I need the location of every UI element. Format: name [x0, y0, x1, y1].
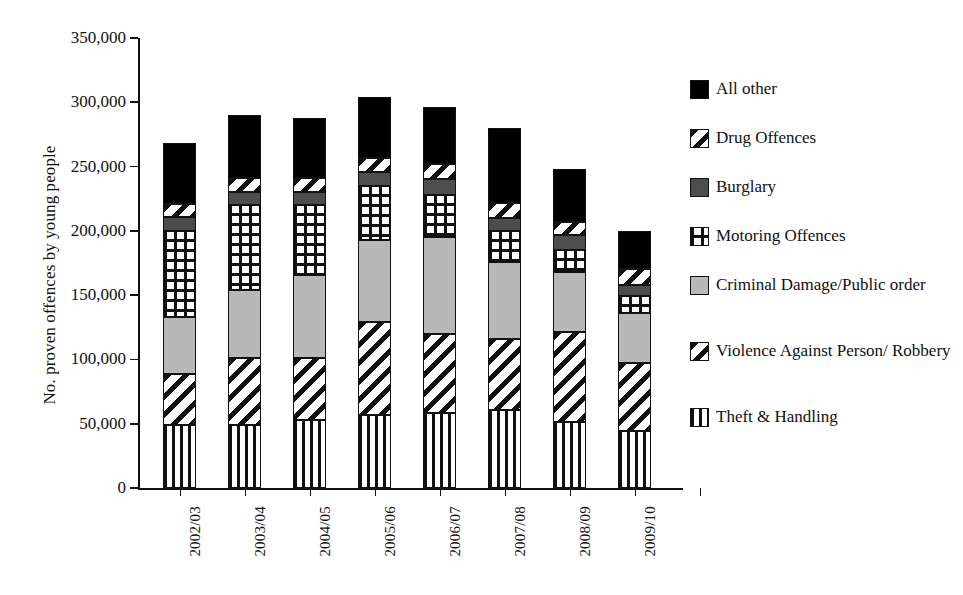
bar-segment [163, 204, 196, 217]
legend-label: Drug Offences [716, 127, 816, 148]
bar-segment [228, 205, 261, 290]
bar-segment [423, 334, 456, 414]
bar-segment [423, 164, 456, 179]
x-tick [635, 488, 637, 496]
bar-2006-07[interactable] [423, 107, 456, 488]
legend-label: Motoring Offences [716, 225, 846, 246]
x-axis-label: 2009/10 [642, 506, 659, 557]
bar-segment [358, 240, 391, 322]
y-axis-line [138, 38, 140, 488]
y-tick-label: 50,000 [79, 414, 126, 434]
y-axis-title: No. proven offences by young people [40, 65, 60, 485]
bar-segment [618, 231, 651, 270]
bar-segment [423, 107, 456, 164]
x-tick [310, 488, 312, 496]
bar-segment [553, 332, 586, 422]
y-tick-label: 0 [118, 478, 127, 498]
legend-swatch-icon [690, 227, 709, 246]
bar-segment [423, 413, 456, 488]
bar-segment [423, 195, 456, 237]
legend-label: Criminal Damage/Public order [716, 274, 926, 295]
bar-segment [358, 172, 391, 186]
bar-2007-08[interactable] [488, 128, 521, 488]
y-tick-label: 250,000 [71, 157, 126, 177]
x-tick [375, 488, 377, 496]
bar-segment [553, 235, 586, 250]
bar-segment [358, 186, 391, 240]
x-axis-label: 2006/07 [447, 506, 464, 557]
bar-segment [358, 322, 391, 415]
bar-segment [293, 275, 326, 359]
bar-segment [618, 313, 651, 363]
bar-segment [358, 97, 391, 157]
bar-2004-05[interactable] [293, 118, 326, 488]
y-tick-label: 300,000 [71, 92, 126, 112]
x-axis-label: 2003/04 [252, 506, 269, 557]
legend-item-all-other[interactable]: All other [690, 78, 777, 99]
bar-segment [488, 231, 521, 262]
y-tick [130, 487, 138, 489]
legend-item-drug-offences[interactable]: Drug Offences [690, 127, 816, 148]
y-tick [130, 423, 138, 425]
legend-swatch-icon [690, 342, 709, 361]
x-axis-label: 2005/06 [382, 506, 399, 557]
bar-segment [293, 178, 326, 192]
bar-2005-06[interactable] [358, 97, 391, 488]
y-tick-label: 100,000 [71, 349, 126, 369]
legend-label: Violence Against Person/ Robbery [716, 340, 951, 361]
bar-segment [488, 218, 521, 231]
y-tick [130, 294, 138, 296]
bar-segment [228, 425, 261, 488]
bar-segment [293, 192, 326, 205]
legend-swatch-icon [690, 178, 709, 197]
bar-segment [163, 143, 196, 203]
stacked-bar-chart: No. proven offences by young people 050,… [0, 0, 963, 595]
legend-item-theft-handling[interactable]: Theft & Handling [690, 406, 838, 427]
bar-segment [488, 203, 521, 218]
bar-segment [488, 262, 521, 339]
bar-segment [228, 178, 261, 192]
bar-segment [553, 222, 586, 235]
bar-segment [618, 285, 651, 297]
legend-swatch-icon [690, 408, 709, 427]
x-tick [440, 488, 442, 496]
bar-segment [618, 296, 651, 313]
bar-segment [553, 169, 586, 222]
bar-segment [488, 410, 521, 488]
legend-item-criminal-damage-public-order[interactable]: Criminal Damage/Public order [690, 274, 926, 295]
bar-2009-10[interactable] [618, 231, 651, 488]
bar-segment [293, 358, 326, 420]
x-axis-line [138, 488, 683, 490]
legend-swatch-icon [690, 129, 709, 148]
bar-segment [618, 363, 651, 431]
bar-segment [163, 317, 196, 374]
y-tick-label: 200,000 [71, 221, 126, 241]
x-tick [570, 488, 572, 496]
y-tick [130, 230, 138, 232]
bar-2002-03[interactable] [163, 143, 196, 488]
bar-2003-04[interactable] [228, 115, 261, 488]
bar-segment [228, 192, 261, 205]
bar-segment [163, 217, 196, 231]
bar-segment [618, 431, 651, 488]
y-tick [130, 37, 138, 39]
bar-2008-09[interactable] [553, 169, 586, 488]
bar-segment [358, 415, 391, 488]
legend-swatch-icon [690, 276, 709, 295]
legend-label: All other [716, 78, 777, 99]
bar-segment [618, 269, 651, 284]
bar-segment [228, 358, 261, 425]
legend-item-violence-against-person-robbery[interactable]: Violence Against Person/ Robbery [690, 340, 951, 361]
y-tick-label: 150,000 [71, 285, 126, 305]
bar-segment [488, 128, 521, 203]
bar-segment [293, 118, 326, 178]
x-axis-label: 2002/03 [187, 506, 204, 557]
bar-segment [553, 250, 586, 272]
bar-segment [488, 339, 521, 410]
y-tick [130, 166, 138, 168]
legend-item-burglary[interactable]: Burglary [690, 176, 776, 197]
bar-segment [553, 422, 586, 488]
y-tick-label: 350,000 [71, 28, 126, 48]
x-tick [700, 488, 702, 496]
legend-item-motoring-offences[interactable]: Motoring Offences [690, 225, 846, 246]
